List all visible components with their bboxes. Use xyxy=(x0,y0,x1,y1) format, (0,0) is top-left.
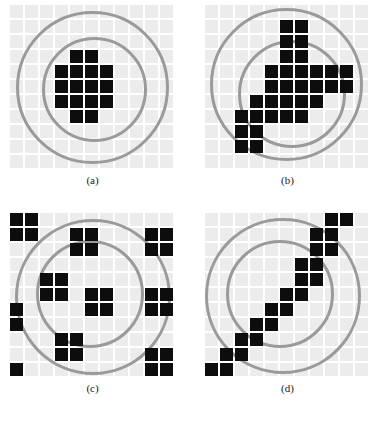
grid-tile xyxy=(160,5,173,18)
filled-cell xyxy=(310,95,323,108)
filled-cell xyxy=(310,228,323,241)
grid-tile xyxy=(160,213,173,226)
filled-cell xyxy=(325,213,338,226)
filled-cell xyxy=(265,65,278,78)
filled-cell xyxy=(160,348,173,361)
filled-cell xyxy=(55,348,68,361)
filled-cell xyxy=(250,318,263,331)
filled-cell xyxy=(280,288,293,301)
panel-d xyxy=(205,213,370,378)
grid-tile xyxy=(160,125,173,138)
filled-cell xyxy=(25,228,38,241)
filled-cell xyxy=(325,243,338,256)
panel-caption-c: (c) xyxy=(10,382,175,394)
grid-tile xyxy=(355,363,368,376)
filled-cell xyxy=(220,348,233,361)
filled-cell xyxy=(265,80,278,93)
grid-tile xyxy=(310,155,323,168)
filled-cell xyxy=(250,125,263,138)
filled-cell xyxy=(160,288,173,301)
filled-cell xyxy=(145,288,158,301)
filled-cell xyxy=(250,110,263,123)
figure-container: (a)(b)(c)(d) xyxy=(0,0,391,423)
filled-cell xyxy=(10,228,23,241)
filled-cell xyxy=(145,228,158,241)
grid-tile xyxy=(10,125,23,138)
filled-cell xyxy=(55,288,68,301)
panel-caption-a: (a) xyxy=(10,174,175,186)
filled-cell xyxy=(265,318,278,331)
filled-cell xyxy=(70,228,83,241)
filled-cell xyxy=(220,363,233,376)
grid-tile xyxy=(220,155,233,168)
grid-tile xyxy=(25,20,38,33)
filled-cell xyxy=(145,348,158,361)
grid-tile xyxy=(10,20,23,33)
filled-cell xyxy=(295,95,308,108)
filled-cell xyxy=(10,213,23,226)
grid-tile xyxy=(130,5,143,18)
grid-tile xyxy=(145,20,158,33)
filled-cell xyxy=(160,228,173,241)
grid-tile xyxy=(40,155,53,168)
filled-cell xyxy=(10,303,23,316)
grid-tile xyxy=(355,140,368,153)
panel-c xyxy=(10,213,175,378)
filled-cell xyxy=(85,65,98,78)
filled-cell xyxy=(325,80,338,93)
grid-tile xyxy=(355,258,368,271)
filled-cell xyxy=(235,140,248,153)
grid-tile xyxy=(25,363,38,376)
filled-cell xyxy=(85,288,98,301)
grid-tile xyxy=(145,140,158,153)
filled-cell xyxy=(85,50,98,63)
grid-tile xyxy=(10,348,23,361)
filled-cell xyxy=(70,65,83,78)
filled-cell xyxy=(55,80,68,93)
filled-cell xyxy=(85,243,98,256)
grid-tile xyxy=(340,363,353,376)
filled-cell xyxy=(100,288,113,301)
filled-cell xyxy=(145,363,158,376)
filled-cell xyxy=(340,213,353,226)
panel-a xyxy=(10,5,175,170)
grid-tile xyxy=(10,243,23,256)
panel-caption-b: (b) xyxy=(205,174,370,186)
grid-tile xyxy=(205,155,218,168)
grid-tile xyxy=(340,5,353,18)
grid-tile xyxy=(25,5,38,18)
grid-tile xyxy=(205,5,218,18)
filled-cell xyxy=(100,80,113,93)
grid-tile xyxy=(160,20,173,33)
grid-tile xyxy=(205,213,218,226)
filled-cell xyxy=(100,303,113,316)
filled-cell xyxy=(340,80,353,93)
grid-tile xyxy=(340,348,353,361)
grid-tile xyxy=(40,363,53,376)
grid-tile xyxy=(355,155,368,168)
grid-tile xyxy=(355,213,368,226)
filled-cell xyxy=(85,303,98,316)
grid-tile xyxy=(355,20,368,33)
filled-cell xyxy=(295,258,308,271)
grid-tile xyxy=(340,155,353,168)
grid-tile xyxy=(325,363,338,376)
filled-cell xyxy=(145,243,158,256)
filled-cell xyxy=(280,35,293,48)
filled-cell xyxy=(70,333,83,346)
grid-tile xyxy=(220,5,233,18)
filled-cell xyxy=(280,95,293,108)
grid-tile xyxy=(25,140,38,153)
grid-tile xyxy=(145,5,158,18)
grid-tile xyxy=(205,348,218,361)
filled-cell xyxy=(100,65,113,78)
grid-tile xyxy=(220,140,233,153)
filled-cell xyxy=(40,273,53,286)
grid-tile xyxy=(160,155,173,168)
filled-cell xyxy=(310,65,323,78)
grid-tile xyxy=(220,213,233,226)
grid-tile xyxy=(205,20,218,33)
grid-tile xyxy=(355,333,368,346)
panel-b xyxy=(205,5,370,170)
grid-tile xyxy=(325,155,338,168)
